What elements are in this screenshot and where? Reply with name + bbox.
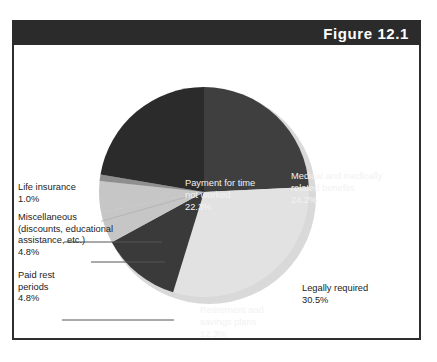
slice-label-retirement: Retirement and savings plans 12.3% <box>200 304 264 340</box>
figure-header-band: Figure 12.1 <box>12 20 421 45</box>
callout-paid-rest-periods: Paid rest periods 4.8% <box>18 270 55 305</box>
slice-label-payment-for-time: Payment for time not worked 22.3% <box>185 177 255 213</box>
figure-number-label: Figure 12.1 <box>323 25 409 42</box>
callout-life-insurance: Life insurance 1.0% <box>18 182 76 205</box>
figure-root: Figure 12.1 <box>0 0 437 362</box>
slice-label-medical: Medical and medically related benefits 2… <box>291 170 382 206</box>
slice-label-legally-required: Legally required 30.5% <box>302 282 368 306</box>
callout-miscellaneous: Miscellaneous (discounts, educational as… <box>18 212 113 258</box>
